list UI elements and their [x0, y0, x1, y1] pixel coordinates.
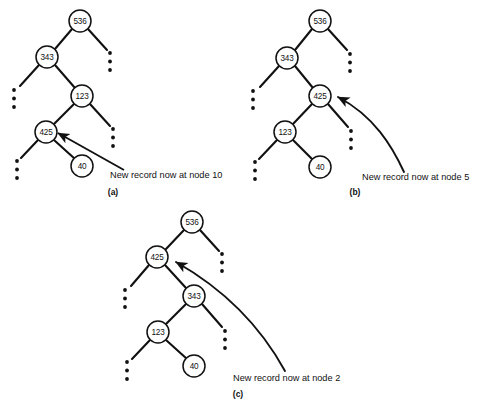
node-key-label: 425 — [39, 128, 53, 137]
ellipsis-dot — [348, 52, 352, 56]
panel-letter: (b) — [350, 187, 361, 197]
ellipsis-dot — [108, 60, 112, 64]
tree-node[interactable]: 536 — [69, 10, 91, 32]
ellipsis-dots — [251, 89, 255, 110]
tree-edge — [202, 304, 222, 327]
tree-edge — [165, 265, 186, 288]
ellipsis-dot — [15, 168, 19, 172]
ellipsis-dot — [108, 51, 112, 55]
ellipsis-dot — [253, 169, 257, 173]
ellipsis-dots — [348, 52, 352, 73]
node-key-label: 425 — [150, 253, 164, 262]
tree-panel-b: 53634342512340New record now at node 5(b… — [251, 10, 469, 197]
tree-panel-c: 53642534312340New record now at node 2(c… — [123, 211, 340, 399]
tree-edge — [295, 66, 313, 88]
tree-node[interactable]: 123 — [71, 85, 93, 107]
tree-node[interactable]: 123 — [274, 121, 296, 143]
ellipsis-dot — [349, 138, 353, 142]
ellipsis-dots — [12, 88, 16, 109]
node-key-label: 343 — [40, 53, 54, 62]
annotation-arrow — [338, 97, 404, 172]
ellipsis-dot — [223, 346, 227, 350]
tree-edge — [55, 29, 72, 49]
tree-node[interactable]: 425 — [146, 246, 168, 268]
ellipsis-dot — [251, 106, 255, 110]
ellipsis-dot — [348, 69, 352, 73]
ellipsis-dot — [253, 177, 257, 181]
ellipsis-dot — [223, 329, 227, 333]
ellipsis-dot — [349, 146, 353, 150]
ellipsis-dots — [108, 51, 112, 72]
panel-letter: (c) — [233, 389, 244, 399]
tree-edge — [166, 340, 187, 359]
tree-edge — [90, 104, 110, 126]
tree-rotation-figure: 53634312342540New record now at node 10(… — [0, 0, 478, 410]
ellipsis-dot — [12, 97, 16, 101]
tree-panel-a: 53634312342540New record now at node 10(… — [12, 10, 222, 197]
tree-edge — [260, 66, 279, 87]
tree-edge — [21, 140, 38, 158]
ellipsis-dots — [253, 160, 257, 181]
tree-node[interactable]: 343 — [36, 46, 58, 68]
node-key-label: 123 — [75, 92, 89, 101]
tree-edge — [259, 140, 277, 159]
ellipsis-dots — [125, 360, 129, 381]
tree-edge — [295, 29, 312, 50]
ellipsis-dot — [12, 105, 16, 109]
tree-node[interactable]: 123 — [147, 321, 169, 343]
ellipsis-dot — [15, 159, 19, 163]
tree-edge — [166, 230, 184, 249]
tree-node[interactable]: 425 — [35, 121, 57, 143]
annotation-caption: New record now at node 5 — [362, 172, 469, 182]
ellipsis-dot — [125, 377, 129, 381]
tree-node[interactable]: 343 — [183, 285, 205, 307]
ellipsis-dots — [220, 252, 224, 273]
tree-edge — [132, 340, 150, 359]
node-key-label: 40 — [78, 162, 87, 171]
node-key-label: 40 — [190, 362, 199, 371]
ellipsis-dot — [349, 129, 353, 133]
tree-edge — [88, 29, 107, 50]
tree-node[interactable]: 343 — [276, 47, 298, 69]
tree-node[interactable]: 536 — [309, 10, 331, 32]
ellipsis-dot — [123, 305, 127, 309]
node-key-label: 343 — [280, 54, 294, 63]
ellipsis-dot — [251, 89, 255, 93]
ellipsis-dot — [251, 98, 255, 102]
annotation-caption: New record now at node 2 — [233, 373, 340, 383]
tree-edge — [54, 104, 74, 124]
ellipsis-dot — [253, 160, 257, 164]
ellipsis-dot — [15, 176, 19, 180]
tree-edge — [328, 29, 347, 50]
tree-edge — [293, 104, 312, 124]
tree-edge — [131, 265, 149, 286]
ellipsis-dots — [349, 129, 353, 150]
tree-node[interactable]: 40 — [183, 355, 205, 377]
ellipsis-dot — [348, 61, 352, 65]
tree-node[interactable]: 425 — [309, 85, 331, 107]
ellipsis-dot — [123, 288, 127, 292]
ellipsis-dot — [125, 360, 129, 364]
ellipsis-dot — [111, 127, 115, 131]
ellipsis-dots — [223, 329, 227, 350]
ellipsis-dot — [12, 88, 16, 92]
ellipsis-dots — [111, 127, 115, 148]
ellipsis-dot — [220, 252, 224, 256]
tree-edge — [20, 65, 39, 86]
tree-edge — [328, 104, 348, 127]
ellipsis-dot — [125, 369, 129, 373]
ellipsis-dot — [111, 144, 115, 148]
ellipsis-dot — [223, 338, 227, 342]
ellipsis-dots — [15, 159, 19, 180]
annotation-caption: New record now at node 10 — [110, 170, 222, 180]
panel-letter: (a) — [108, 187, 119, 197]
ellipsis-dots — [123, 288, 127, 309]
tree-node[interactable]: 40 — [71, 155, 93, 177]
tree-node[interactable]: 40 — [309, 156, 331, 178]
node-key-label: 40 — [316, 163, 325, 172]
tree-edge — [200, 230, 219, 251]
tree-edge — [55, 65, 75, 88]
tree-node[interactable]: 536 — [181, 211, 203, 233]
ellipsis-dot — [108, 68, 112, 72]
ellipsis-dot — [111, 136, 115, 140]
